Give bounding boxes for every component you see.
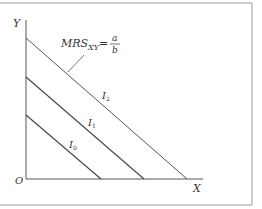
x-axis-label: X [192, 182, 202, 195]
curve-i1 [26, 77, 144, 179]
label-i2: I2 [101, 90, 110, 102]
y-axis-label: Y [13, 17, 22, 30]
mrs-numerator: a [112, 33, 117, 43]
label-i1: I1 [87, 117, 96, 129]
origin-label: O [15, 175, 23, 186]
curve-i2 [26, 38, 187, 179]
annotation-leader [68, 55, 84, 72]
mrs-denominator: b [112, 45, 118, 55]
label-i0: I0 [68, 139, 77, 151]
mrs-label: MRSXY= [60, 37, 108, 52]
diagram: Y X O MRSXY= a b I0 I1 I2 [0, 0, 262, 209]
